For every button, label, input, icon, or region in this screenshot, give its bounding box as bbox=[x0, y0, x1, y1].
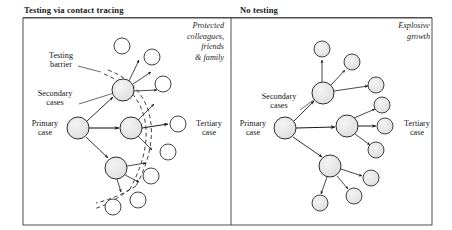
edge-r-lower-a bbox=[341, 169, 362, 176]
edge-r-lower-b bbox=[337, 176, 348, 189]
uninfected-node bbox=[130, 192, 146, 208]
right-panel-graph bbox=[274, 41, 393, 211]
secondary-case-node bbox=[105, 157, 127, 179]
secondary-case-node bbox=[312, 82, 334, 104]
secondary-case-node bbox=[319, 155, 341, 177]
uninfected-node bbox=[105, 199, 121, 215]
edge-blocked-lower-c bbox=[117, 179, 121, 192]
tertiary-case-node bbox=[314, 41, 330, 57]
tertiary-case-node-left bbox=[170, 116, 186, 132]
primary-case-node-left bbox=[67, 117, 89, 139]
tertiary-case-node bbox=[374, 97, 390, 113]
edge-r-mid-a bbox=[354, 109, 375, 118]
edge-blocked-upper-a bbox=[129, 60, 139, 81]
uninfected-node bbox=[160, 144, 176, 160]
edge-r-upper-c bbox=[334, 86, 368, 91]
tertiary-case-node bbox=[346, 188, 362, 204]
secondary-case-node bbox=[120, 117, 142, 139]
edge-r-upper-b bbox=[331, 70, 345, 85]
leader-left-secondary bbox=[79, 93, 114, 104]
uninfected-node bbox=[143, 168, 159, 184]
edge-primary-to-secondary-lower bbox=[86, 137, 108, 158]
edge-blocked-lower-a bbox=[127, 163, 146, 166]
secondary-case-node bbox=[112, 79, 134, 101]
edge-r-primary-to-secondary-lower bbox=[293, 137, 322, 157]
tertiary-case-node bbox=[368, 142, 384, 158]
edge-r-primary-to-secondary-upper bbox=[294, 101, 314, 121]
primary-case-node-right bbox=[274, 117, 296, 139]
edge-blocked-lower-b bbox=[125, 175, 139, 182]
tertiary-case-node bbox=[363, 170, 379, 186]
diagram-canvas bbox=[0, 0, 452, 230]
figure-container: Testing via contact tracing No testing P… bbox=[0, 0, 452, 230]
leader-testing-barrier bbox=[78, 66, 101, 72]
tertiary-case-node bbox=[368, 77, 384, 93]
secondary-case-node bbox=[336, 115, 358, 137]
edge-r-primary-to-secondary-mid bbox=[296, 127, 335, 128]
leader-right-secondary bbox=[300, 99, 315, 110]
tertiary-case-node bbox=[312, 195, 328, 211]
tertiary-case-node-right bbox=[377, 118, 393, 134]
edge-blocked-upper-b bbox=[133, 72, 151, 84]
edge-r-mid-b bbox=[355, 134, 370, 145]
uninfected-node bbox=[155, 76, 171, 92]
tertiary-case-node bbox=[344, 54, 360, 70]
edge-r-lower-c bbox=[321, 177, 327, 194]
uninfected-node bbox=[144, 49, 160, 65]
uninfected-node bbox=[114, 38, 130, 54]
left-panel-graph bbox=[67, 38, 186, 215]
